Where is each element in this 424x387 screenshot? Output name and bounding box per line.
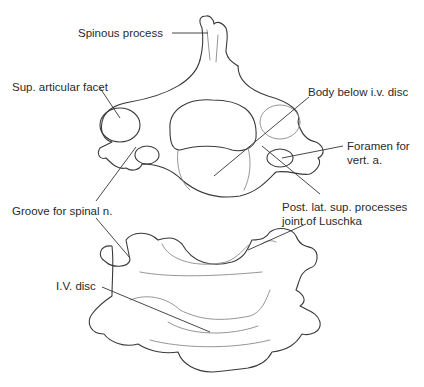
label-foramen-line1: Foramen for — [347, 140, 410, 153]
label-body-below-iv-disc: Body below i.v. disc — [308, 86, 408, 99]
label-post-lat-line1: Post. lat. sup. processes — [282, 201, 407, 214]
label-post-lat-line2: joint of Luschka — [282, 215, 362, 228]
label-foramen-line2: vert. a. — [347, 154, 382, 167]
label-spinous-process: Spinous process — [78, 27, 163, 40]
vertebra-diagram: Spinous process Sup. articular facet Bod… — [0, 0, 424, 387]
label-iv-disc: I.V. disc — [56, 280, 96, 293]
lower-vertebrae — [89, 229, 320, 372]
upper-vertebra — [98, 16, 323, 197]
label-groove-spinal-n: Groove for spinal n. — [12, 205, 112, 218]
vertebra-drawing — [0, 0, 424, 387]
leader-lines — [96, 33, 343, 332]
label-sup-articular-facet: Sup. articular facet — [12, 81, 108, 94]
